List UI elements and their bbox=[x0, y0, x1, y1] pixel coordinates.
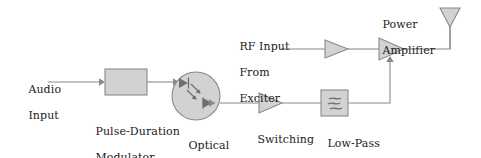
antenna-icon bbox=[440, 8, 460, 49]
power-amplifier-label-line2: Amplifier bbox=[382, 44, 435, 57]
rf-input-label-line3: Exciter bbox=[239, 92, 280, 105]
switching-amplifier-label-line1: Switching bbox=[257, 133, 314, 146]
power-amplifier-label-line1: Power bbox=[382, 18, 417, 31]
pulse-duration-modulator-block bbox=[105, 69, 147, 95]
rf-input-label: RF Input From Exciter bbox=[225, 27, 290, 118]
block-diagram: Audio Input Pulse-Duration Modulator Opt… bbox=[0, 0, 481, 158]
rf-driver-amplifier-block bbox=[325, 40, 348, 58]
rf-input-label-line1: RF Input bbox=[239, 40, 289, 53]
pulse-duration-modulator-label-line2: Modulator bbox=[95, 151, 154, 158]
audio-input-label-line1: Audio bbox=[28, 83, 61, 96]
low-pass-filter-label: Low-Pass Filter bbox=[313, 124, 380, 158]
low-pass-filter-label-line1: Low-Pass bbox=[327, 137, 380, 150]
optical-coupler-label: Optical Coupler bbox=[174, 126, 234, 158]
audio-input-label: Audio Input bbox=[14, 70, 61, 135]
power-amplifier-label: Power Amplifier bbox=[368, 5, 435, 70]
pulse-duration-modulator-label: Pulse-Duration Modulator bbox=[81, 112, 180, 158]
wire-modulator-to-coupler bbox=[147, 78, 179, 86]
switching-amplifier-label: Switching Amplifier bbox=[243, 120, 314, 158]
optical-coupler-label-line1: Optical bbox=[188, 139, 229, 152]
audio-input-label-line2: Input bbox=[28, 109, 58, 122]
pulse-duration-modulator-label-line1: Pulse-Duration bbox=[95, 125, 180, 138]
rf-input-label-line2: From bbox=[239, 66, 269, 79]
